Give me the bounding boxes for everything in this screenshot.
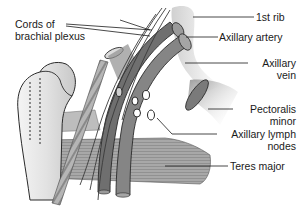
label-cords-brachial-plexus: Cords of brachial plexus [15,18,85,42]
label-pectoralis-minor: Pectoralis minor [250,103,296,127]
pectoralis-minor [182,77,238,125]
label-lymph-line2: nodes [231,140,296,152]
label-pectoralis-line2: minor [250,115,296,127]
label-lymph-line1: Axillary lymph [231,128,296,140]
label-pectoralis-line1: Pectoralis [250,103,296,115]
label-first-rib: 1st rib [256,11,285,23]
label-axillary-artery: Axillary artery [219,31,283,43]
label-vein-line1: Axillary [262,57,296,69]
label-cords-line2: brachial plexus [15,30,85,42]
label-vein-line2: vein [262,69,296,81]
label-axillary-lymph-nodes: Axillary lymph nodes [231,128,296,152]
label-cords-line1: Cords of [15,18,85,30]
label-teres-major: Teres major [230,160,285,172]
label-axillary-vein: Axillary vein [262,57,296,81]
